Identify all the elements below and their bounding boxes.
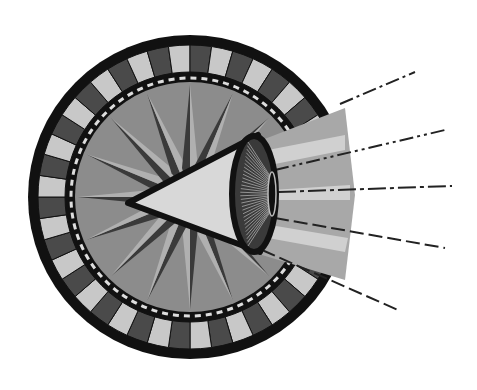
eye-dial-illustration (0, 0, 477, 390)
illustration (0, 0, 477, 390)
pupil (268, 172, 276, 216)
